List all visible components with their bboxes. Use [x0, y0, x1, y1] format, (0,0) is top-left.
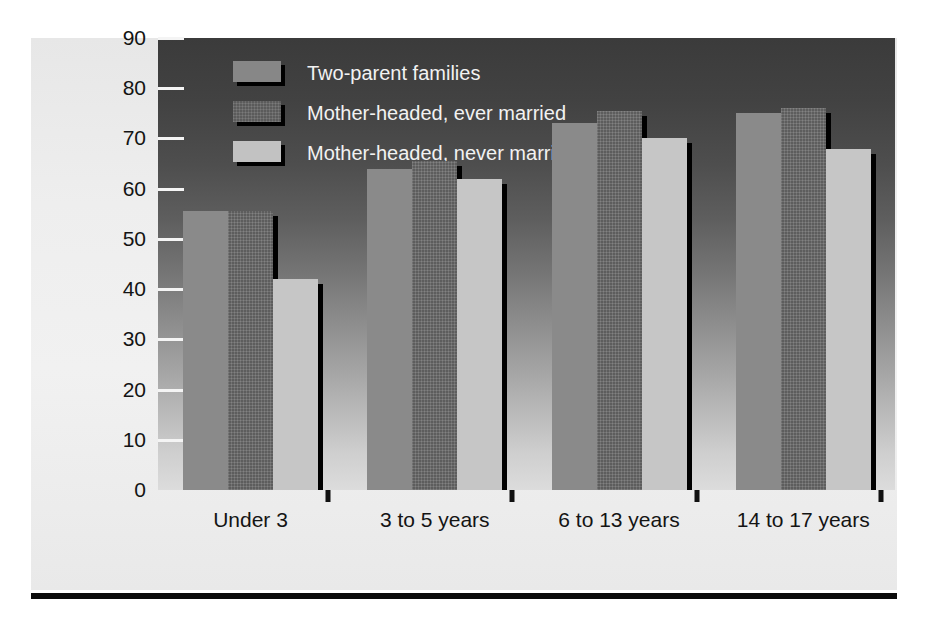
bar-fill — [736, 113, 781, 490]
bar — [273, 279, 318, 490]
bar-shadow — [871, 154, 876, 491]
bar-shadow — [826, 113, 831, 148]
bar — [457, 179, 502, 490]
y-axis-tick-labels: 0102030405060708090 — [31, 38, 158, 490]
bar-shadow — [318, 284, 323, 490]
y-axis-tick-label: 60 — [123, 177, 146, 201]
y-axis-tick-label: 90 — [123, 26, 146, 50]
bar-shadow — [502, 184, 507, 490]
x-axis-tick-labels: Under 33 to 5 years6 to 13 years14 to 17… — [158, 490, 895, 550]
bar-fill — [228, 211, 273, 490]
bar-fill — [273, 279, 318, 490]
y-axis-tick — [158, 389, 184, 392]
bar-fill — [412, 161, 457, 490]
bar-fill — [597, 111, 642, 490]
bar-shadow — [457, 166, 462, 179]
bar-shadow — [642, 116, 647, 139]
x-axis-tick — [326, 490, 331, 502]
y-axis-tick-label: 10 — [123, 428, 146, 452]
figure-panel: Percentage of employed mothers 010203040… — [31, 38, 897, 590]
y-axis-tick — [158, 439, 184, 442]
bar — [367, 169, 412, 490]
y-axis-tick — [158, 87, 184, 90]
legend-swatch-shadow-bottom — [237, 82, 285, 86]
bar — [826, 149, 871, 491]
bar-fill — [781, 108, 826, 490]
bar — [228, 211, 273, 490]
bottom-divider-rule — [31, 593, 897, 599]
x-axis-tick-label: 6 to 13 years — [558, 508, 679, 532]
bar-shadow — [687, 143, 692, 490]
legend-swatch-shadow-bottom — [237, 162, 285, 166]
legend-item[interactable]: Two-parent families — [233, 56, 577, 90]
y-axis-tick-label: 30 — [123, 327, 146, 351]
y-axis-tick — [158, 238, 184, 241]
y-axis-tick-label: 20 — [123, 378, 146, 402]
legend-swatch-fill — [233, 61, 281, 82]
y-axis-tick — [158, 37, 184, 40]
bar-fill — [367, 169, 412, 490]
bar — [552, 123, 597, 490]
x-axis-tick-label: Under 3 — [213, 508, 288, 532]
bar-fill — [552, 123, 597, 490]
y-axis-tick-label: 50 — [123, 227, 146, 251]
y-axis-tick-label: 40 — [123, 277, 146, 301]
x-axis-tick — [510, 490, 515, 502]
legend-item[interactable]: Mother-headed, never married — [233, 136, 577, 170]
bar — [597, 111, 642, 490]
chart-figure: Percentage of employed mothers 010203040… — [0, 0, 927, 627]
x-axis-tick — [878, 490, 883, 502]
bar-shadow — [273, 216, 278, 279]
legend-label: Two-parent families — [307, 62, 480, 85]
y-axis-tick-label: 0 — [134, 478, 146, 502]
bar — [642, 138, 687, 490]
legend-swatch-fill — [233, 101, 281, 122]
bar-fill — [183, 211, 228, 490]
legend-swatch — [233, 101, 285, 126]
legend-swatch-fill — [233, 141, 281, 162]
y-axis-tick — [158, 137, 184, 140]
x-axis-tick — [694, 490, 699, 502]
bar — [736, 113, 781, 490]
chart-legend: Two-parent familiesMother-headed, ever m… — [233, 56, 577, 176]
bar — [183, 211, 228, 490]
bar-fill — [826, 149, 871, 491]
y-axis-tick-label: 80 — [123, 76, 146, 100]
y-axis-tick — [158, 288, 184, 291]
y-axis-tick-label: 70 — [123, 126, 146, 150]
y-axis-tick — [158, 188, 184, 191]
legend-item[interactable]: Mother-headed, ever married — [233, 96, 577, 130]
y-axis-tick — [158, 338, 184, 341]
bar-fill — [642, 138, 687, 490]
legend-swatch — [233, 61, 285, 86]
x-axis-tick-label: 3 to 5 years — [380, 508, 490, 532]
plot-area: Two-parent familiesMother-headed, ever m… — [158, 38, 895, 490]
legend-swatch — [233, 141, 285, 166]
legend-swatch-shadow-bottom — [237, 122, 285, 126]
bar-fill — [457, 179, 502, 490]
bar — [781, 108, 826, 490]
legend-label: Mother-headed, ever married — [307, 102, 566, 125]
x-axis-tick-label: 14 to 17 years — [737, 508, 870, 532]
bar — [412, 161, 457, 490]
